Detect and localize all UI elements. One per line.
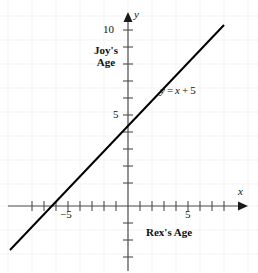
equation-lhs: y [160, 84, 165, 96]
graph-canvas [0, 0, 258, 273]
equation-equals: = [167, 84, 173, 96]
coordinate-plane-graph: y x 10 5 −5 5 Joy's Age Rex's Age y=x+5 [0, 0, 258, 273]
x-axis-arrowhead [238, 202, 248, 211]
equation-annotation: y=x+5 [160, 84, 196, 96]
y-tick-label-5: 5 [113, 108, 119, 120]
x-tick-label-5: 5 [185, 208, 191, 220]
y-axis-symbol: y [134, 8, 139, 20]
x-tick-label-negative-5: −5 [60, 208, 72, 220]
y-tick-label-10: 10 [103, 23, 114, 35]
y-axis-title-line-2: Age [86, 56, 126, 68]
equation-constant: 5 [190, 84, 196, 96]
x-axis-title: Rex's Age [146, 226, 192, 238]
equation-variable: x [175, 84, 180, 96]
y-axis-title: Joy's Age [86, 44, 126, 68]
x-axis-symbol: x [238, 185, 243, 197]
y-axis-title-line-1: Joy's [86, 44, 126, 56]
grid-lines [0, 0, 258, 273]
equation-plus: + [182, 84, 188, 96]
y-axis-arrowhead [124, 12, 133, 22]
